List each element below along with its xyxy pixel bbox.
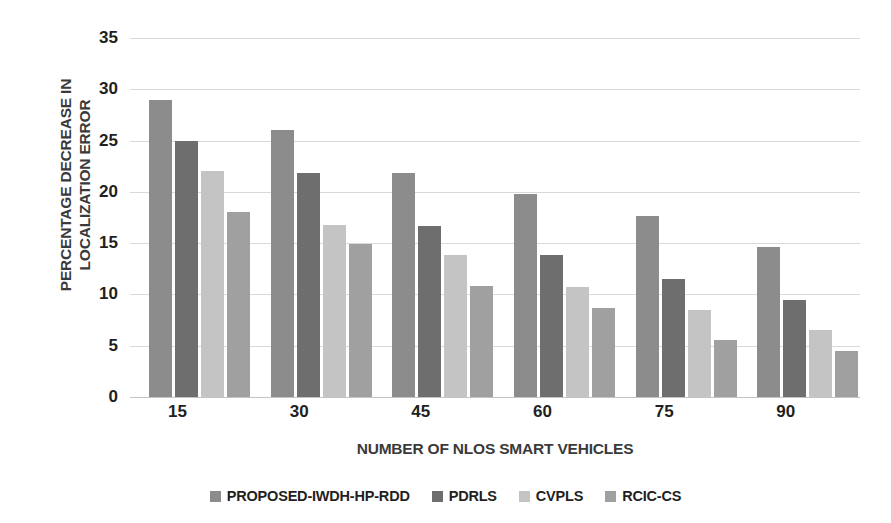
legend-swatch-icon [519,491,530,502]
y-tick-label: 20 [99,182,118,202]
bar[interactable] [149,100,172,397]
legend-item[interactable]: PDRLS [432,488,497,504]
bar-group [252,38,374,397]
x-axis-tick-labels: 153045607590 [130,402,860,432]
bar[interactable] [757,247,780,397]
bar[interactable] [783,300,806,397]
legend-swatch-icon [432,491,443,502]
bar-groups [130,38,860,397]
bar[interactable] [297,173,320,397]
x-tick-label: 90 [738,402,860,432]
bar[interactable] [227,212,250,397]
bar[interactable] [662,279,685,397]
legend-label: CVPLS [536,488,583,504]
bar[interactable] [392,173,415,397]
bar[interactable] [566,287,589,397]
legend-item[interactable]: CVPLS [519,488,583,504]
y-tick-label: 25 [99,131,118,151]
bar[interactable] [592,308,615,397]
y-axis-title: PERCENTAGE DECREASE IN LOCALIZATION ERRO… [45,5,105,365]
y-axis-title-line-2: LOCALIZATION ERROR [75,100,94,271]
x-tick-label: 15 [130,402,252,432]
x-tick-label: 60 [495,402,617,432]
bar[interactable] [444,255,467,397]
bar-group [495,38,617,397]
legend-label: PDRLS [449,488,497,504]
bar-group [130,38,252,397]
legend-item[interactable]: PROPOSED-IWDH-HP-RDD [210,488,410,504]
bar-group [738,38,860,397]
y-tick-label: 15 [99,233,118,253]
x-axis-title: NUMBER OF NLOS SMART VEHICLES [130,440,860,458]
bar[interactable] [175,141,198,397]
bar[interactable] [271,130,294,397]
bar[interactable] [809,330,832,397]
y-axis-title-line-1: PERCENTAGE DECREASE IN [56,79,75,291]
x-tick-label: 30 [252,402,374,432]
bar[interactable] [470,286,493,397]
chart-legend: PROPOSED-IWDH-HP-RDDPDRLSCVPLSRCIC-CS [0,488,891,504]
y-tick-label: 35 [99,28,118,48]
bar[interactable] [835,351,858,397]
legend-item[interactable]: RCIC-CS [605,488,681,504]
legend-swatch-icon [210,491,221,502]
y-tick-label: 10 [99,284,118,304]
y-tick-label: 30 [99,79,118,99]
y-tick-label: 0 [109,387,118,407]
bar-chart: PERCENTAGE DECREASE IN LOCALIZATION ERRO… [0,0,891,523]
x-tick-label: 45 [373,402,495,432]
bar-group [617,38,739,397]
legend-label: RCIC-CS [622,488,681,504]
bar[interactable] [714,340,737,397]
bar[interactable] [418,226,441,397]
legend-label: PROPOSED-IWDH-HP-RDD [227,488,410,504]
bar[interactable] [201,171,224,397]
x-tick-label: 75 [617,402,739,432]
plot-area: 35302520151050 [130,38,860,397]
bar[interactable] [636,216,659,397]
legend-swatch-icon [605,491,616,502]
bar-group [373,38,495,397]
bar[interactable] [349,244,372,397]
gridline-0 [130,397,860,398]
bar[interactable] [323,225,346,397]
bar[interactable] [514,194,537,397]
bar[interactable] [688,310,711,397]
y-tick-label: 5 [109,336,118,356]
bar[interactable] [540,255,563,397]
